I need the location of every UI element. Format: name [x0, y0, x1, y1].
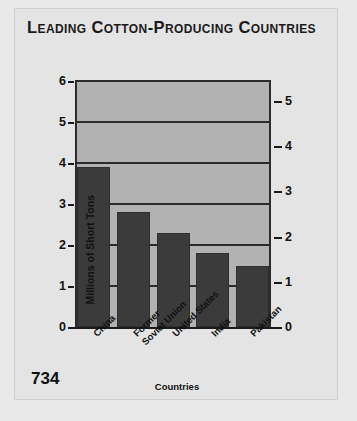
y-axis-tick-label-left: 1 — [59, 279, 75, 293]
page-card: Leading Cotton-Producing Countries 01234… — [14, 8, 338, 400]
y-axis-tick-label-left: 5 — [59, 115, 75, 129]
x-axis-title: Countries — [15, 381, 339, 392]
page-number: 734 — [31, 369, 59, 389]
y-axis-tick-label-left: 4 — [59, 156, 75, 170]
bar — [117, 212, 150, 327]
y-axis-tick-label-right: 1 — [271, 275, 292, 289]
y-axis-tick-label-right: 4 — [271, 139, 292, 153]
chart-title: Leading Cotton-Producing Countries — [27, 17, 317, 38]
y-axis-title-left: Millions of Short Tons — [84, 195, 96, 304]
y-axis-tick-label-right: 2 — [271, 230, 292, 244]
y-axis-tick-label-right: 5 — [271, 94, 292, 108]
y-axis-tick-label-right: 3 — [271, 184, 292, 198]
y-axis-tick-label-left: 6 — [59, 74, 75, 88]
y-axis-tick-label-left: 3 — [59, 197, 75, 211]
y-axis-tick-label-left: 2 — [59, 238, 75, 252]
